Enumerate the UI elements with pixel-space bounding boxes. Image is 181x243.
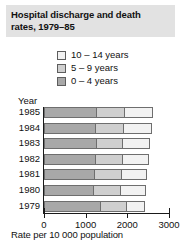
x-axis-title: Rate per 10 000 population xyxy=(11,229,123,240)
bar-segment xyxy=(44,138,97,149)
legend-item[interactable]: 0 – 4 years xyxy=(57,75,129,87)
x-axis-tick xyxy=(169,208,170,218)
bar-segment xyxy=(100,201,127,212)
bar-segment xyxy=(94,169,122,180)
x-axis-tick-label: 3000 xyxy=(158,219,179,230)
bar-segment xyxy=(122,138,150,149)
y-axis-title: Year xyxy=(18,95,37,106)
y-axis-tick-label: 1979 xyxy=(19,200,40,211)
y-axis-tick-label: 1984 xyxy=(19,122,40,133)
bar-segment xyxy=(95,154,123,165)
legend-swatch xyxy=(57,77,66,86)
bar-segment xyxy=(44,185,94,196)
bar-segment xyxy=(44,107,97,118)
chart-title-line-1: Hospital discharge and death xyxy=(11,9,171,21)
chart-legend: 10 – 14 years5 – 9 years0 – 4 years xyxy=(57,49,129,88)
bar-segment xyxy=(123,123,152,134)
y-axis-tick-label: 1981 xyxy=(19,168,40,179)
chart-figure: Hospital discharge and death rates, 1979… xyxy=(0,0,181,243)
x-axis-tick xyxy=(44,208,45,218)
chart-title-line-2: rates, 1979–85 xyxy=(11,21,171,33)
legend-label: 5 – 9 years xyxy=(71,63,118,73)
bar-segment xyxy=(44,169,95,180)
bar-segment xyxy=(95,123,124,134)
x-axis-tick xyxy=(127,213,128,218)
bar-segment xyxy=(96,138,123,149)
legend-label: 0 – 4 years xyxy=(71,76,118,86)
bar-segment xyxy=(121,169,147,180)
y-axis-tick-label: 1982 xyxy=(19,153,40,164)
chart-title: Hospital discharge and death rates, 1979… xyxy=(6,5,175,37)
bar-segment xyxy=(124,107,153,118)
legend-label: 10 – 14 years xyxy=(71,50,129,60)
bar-segment xyxy=(44,154,96,165)
legend-swatch xyxy=(57,64,66,73)
bar-segment xyxy=(93,185,121,196)
y-axis-tick-label: 1980 xyxy=(19,184,40,195)
legend-swatch xyxy=(57,51,66,60)
x-axis-line xyxy=(43,213,170,214)
bar-segment xyxy=(126,201,145,212)
legend-item[interactable]: 10 – 14 years xyxy=(57,49,129,61)
plot-area: 1985198419831982198119801979010002000300… xyxy=(44,107,169,213)
bar-segment xyxy=(44,123,96,134)
bar-segment xyxy=(96,107,125,118)
bar-segment xyxy=(122,154,149,165)
x-axis-tick xyxy=(86,213,87,218)
legend-item[interactable]: 5 – 9 years xyxy=(57,62,129,74)
y-axis-tick-label: 1983 xyxy=(19,137,40,148)
bar-segment xyxy=(120,185,146,196)
bar-segment xyxy=(44,201,101,212)
y-axis-tick-label: 1985 xyxy=(19,106,40,117)
